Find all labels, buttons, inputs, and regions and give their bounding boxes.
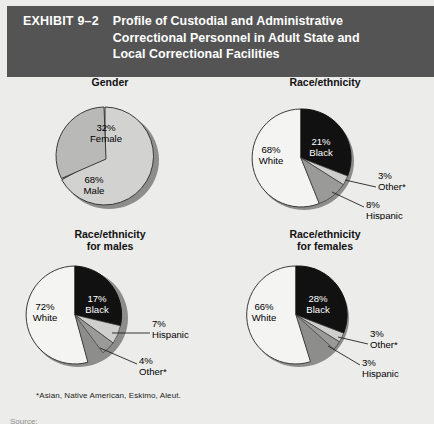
callout-hispanic-name: Hispanic: [362, 368, 399, 379]
label-black-pct: 21%: [311, 136, 331, 147]
chart-race-females: Race/ethnicity for females 28% Black 66%…: [216, 224, 434, 390]
footnote-asterisk: *Asian, Native American, Eskimo, Aleut.: [36, 391, 181, 400]
callout-other-pct: 3%: [370, 328, 384, 339]
chart-gender-title-line1: Gender: [92, 76, 129, 88]
callout-hispanic-pct: 3%: [362, 357, 376, 368]
label-female-name: Female: [90, 133, 122, 144]
exhibit-header-band: EXHIBIT 9–2 Profile of Custodial and Adm…: [7, 6, 434, 77]
label-male-pct: 68%: [84, 174, 104, 185]
label-black-name: Black: [309, 147, 333, 158]
charts-area: Gender 32% Female 68% Male Race/ethnicit…: [0, 72, 434, 390]
chart-race-females-title-line2: for females: [216, 240, 434, 252]
label-male-name: Male: [84, 185, 105, 196]
callout-hispanic-name: Hispanic: [152, 329, 189, 340]
chart-gender-pie: 32% Female 68% Male: [2, 88, 218, 220]
label-white-pct: 68%: [261, 144, 281, 155]
label-white-name: White: [259, 155, 284, 166]
chart-race-males: Race/ethnicity for males 17% Black 72% W…: [2, 224, 218, 390]
label-black-pct: 28%: [308, 293, 328, 304]
exhibit-figure: EXHIBIT 9–2 Profile of Custodial and Adm…: [0, 0, 434, 424]
callout-hispanic-pct: 8%: [366, 199, 380, 210]
callout-other-pct: 3%: [378, 170, 392, 181]
callout-other-pct: 4%: [139, 355, 153, 366]
label-white-pct: 72%: [35, 301, 55, 312]
callout-hispanic-pct: 7%: [152, 318, 166, 329]
chart-gender-title: Gender: [2, 76, 218, 88]
exhibit-title: Profile of Custodial and Administrative …: [113, 13, 397, 63]
chart-race-females-title-line1: Race/ethnicity: [289, 228, 360, 240]
chart-race-males-title-line1: Race/ethnicity: [74, 228, 145, 240]
chart-race-overall-pie: 21% Black 68% White 3% Other* 8% Hispani…: [216, 88, 434, 220]
leader-line-other: [345, 180, 376, 187]
exhibit-number-label: EXHIBIT 9–2: [7, 13, 99, 29]
source-line-clipped: Source:: [10, 417, 310, 424]
chart-race-males-pie: 17% Black 72% White 7% Hispanic 4% Other…: [2, 252, 218, 388]
chart-race-males-title-line2: for males: [2, 240, 218, 252]
callout-hispanic-name: Hispanic: [366, 210, 403, 220]
chart-race-females-pie: 28% Black 66% White 3% Other* 3% Hispani…: [216, 252, 434, 388]
callout-other-name: Other*: [370, 339, 398, 350]
chart-race-overall-title: Race/ethnicity: [216, 76, 434, 88]
callout-other-name: Other*: [139, 366, 167, 377]
label-white-name: White: [33, 312, 58, 323]
chart-race-males-title: Race/ethnicity for males: [2, 228, 218, 252]
chart-gender: Gender 32% Female 68% Male: [2, 72, 218, 224]
chart-race-females-title: Race/ethnicity for females: [216, 228, 434, 252]
label-white-pct: 66%: [254, 301, 274, 312]
label-black-name: Black: [306, 304, 330, 315]
callout-other-name: Other*: [378, 181, 406, 192]
chart-race-overall-title-line1: Race/ethnicity: [289, 76, 360, 88]
label-black-pct: 17%: [87, 293, 107, 304]
leader-line-hispanic: [328, 346, 360, 365]
label-black-name: Black: [85, 304, 109, 315]
leader-line-hispanic: [332, 192, 364, 207]
label-white-name: White: [252, 312, 277, 323]
label-female-pct: 32%: [96, 122, 116, 133]
chart-race-overall: Race/ethnicity 21% Black 68% White: [216, 72, 434, 224]
